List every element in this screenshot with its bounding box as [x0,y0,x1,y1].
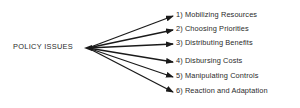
item-mobilizing-resources: 1) Mobilizing Resources [176,10,257,19]
arrow-1 [88,16,173,48]
arrow-2 [88,30,173,48]
item-manipulating-controls: 5) Manipulating Controls [176,71,259,80]
item-reaction-adaptation: 6) Reaction and Adaptation [176,86,268,95]
arrow-3 [88,44,173,48]
policy-issues-diagram: POLICY ISSUES 1) Mobilizing Resources 2)… [0,0,300,108]
item-disbursing-costs: 4) Disbursing Costs [176,56,242,65]
arrow-5 [88,48,173,77]
item-distributing-benefits: 3) Distributing Benefits [176,38,253,47]
item-choosing-priorities: 2) Choosing Priorities [176,24,249,33]
